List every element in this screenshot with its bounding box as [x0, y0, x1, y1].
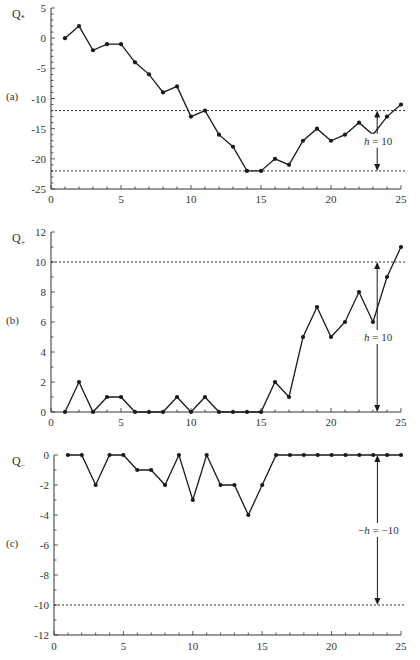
- data-point: [189, 115, 193, 119]
- y-tick-label: 4: [41, 346, 47, 358]
- data-point: [287, 395, 291, 399]
- data-point: [371, 320, 375, 324]
- y-tick-label: 0: [44, 449, 50, 461]
- data-point: [343, 133, 347, 137]
- data-point: [177, 453, 181, 457]
- x-tick-label: 15: [256, 416, 268, 428]
- data-point: [245, 169, 249, 173]
- data-point: [203, 108, 207, 112]
- data-point: [399, 102, 403, 106]
- data-point: [147, 72, 151, 76]
- data-point: [357, 121, 361, 125]
- data-point: [245, 410, 249, 414]
- x-tick-label: 25: [396, 416, 408, 428]
- data-line: [65, 26, 401, 171]
- x-tick-label: 5: [118, 416, 124, 428]
- data-point: [133, 410, 137, 414]
- panel-label: (b): [6, 314, 19, 327]
- data-point: [301, 139, 305, 143]
- x-tick-label: 5: [121, 640, 127, 652]
- data-point: [371, 453, 375, 457]
- data-point: [63, 36, 67, 40]
- x-tick-label: 15: [256, 193, 268, 205]
- data-point: [133, 60, 137, 64]
- x-tick-label: 10: [187, 640, 199, 652]
- data-point: [343, 453, 347, 457]
- data-point: [329, 335, 333, 339]
- y-tick-label: 0: [41, 32, 47, 44]
- x-tick-label: 10: [186, 416, 198, 428]
- data-point: [66, 453, 70, 457]
- x-tick-label: 20: [326, 640, 338, 652]
- data-point: [232, 483, 236, 487]
- y-tick-label: 12: [35, 226, 46, 238]
- cusum-figure: 051015202550-5-10-15-20-25h = 10(a)Q*051…: [0, 0, 420, 660]
- data-point: [287, 163, 291, 167]
- data-point: [330, 453, 334, 457]
- data-point: [217, 410, 221, 414]
- y-axis-label: Q−: [12, 454, 26, 470]
- panel-label: (a): [6, 90, 19, 103]
- y-tick-label: -2: [40, 479, 49, 491]
- x-tick-label: 25: [396, 640, 408, 652]
- data-point: [385, 115, 389, 119]
- data-point: [231, 145, 235, 149]
- y-tick-label: -10: [31, 93, 46, 105]
- h-annotation: −h = −10: [358, 524, 399, 536]
- data-point: [161, 90, 165, 94]
- y-tick-label: -15: [31, 123, 46, 135]
- data-point: [274, 453, 278, 457]
- data-point: [135, 468, 139, 472]
- y-tick-label: -4: [40, 509, 50, 521]
- data-point: [63, 410, 67, 414]
- data-point: [385, 453, 389, 457]
- y-tick-label: -5: [37, 62, 47, 74]
- y-tick-label: -25: [31, 183, 46, 195]
- panel-b: 0510152025121086420h = 10(b)Q+: [6, 226, 407, 428]
- x-tick-label: 0: [51, 640, 57, 652]
- arrow-head-icon: [374, 164, 380, 171]
- x-tick-label: 15: [257, 640, 269, 652]
- x-tick-label: 20: [326, 416, 338, 428]
- data-point: [77, 380, 81, 384]
- data-point: [147, 410, 151, 414]
- data-point: [385, 275, 389, 279]
- y-tick-label: -6: [40, 539, 50, 551]
- data-point: [288, 453, 292, 457]
- x-tick-label: 0: [48, 193, 54, 205]
- x-tick-label: 0: [48, 416, 54, 428]
- data-point: [259, 410, 263, 414]
- y-axis-label: Q*: [12, 7, 25, 23]
- data-point: [357, 453, 361, 457]
- data-point: [119, 42, 123, 46]
- data-point: [316, 453, 320, 457]
- arrow-head-icon: [374, 455, 380, 462]
- data-point: [149, 468, 153, 472]
- data-point: [217, 133, 221, 137]
- data-point: [302, 453, 306, 457]
- arrow-head-icon: [374, 111, 380, 118]
- y-tick-label: -20: [31, 153, 46, 165]
- h-annotation: h = 10: [364, 135, 393, 147]
- data-point: [163, 483, 167, 487]
- y-tick-label: 8: [41, 286, 47, 298]
- y-tick-label: 10: [35, 256, 47, 268]
- y-tick-label: 2: [41, 376, 47, 388]
- panel-label: (c): [6, 537, 19, 550]
- data-point: [315, 127, 319, 131]
- data-point: [191, 498, 195, 502]
- data-point: [329, 139, 333, 143]
- data-point: [77, 24, 81, 28]
- arrow-head-icon: [374, 262, 380, 269]
- data-point: [119, 395, 123, 399]
- x-tick-label: 10: [186, 193, 198, 205]
- data-point: [259, 169, 263, 173]
- y-tick-label: -8: [40, 569, 50, 581]
- data-point: [273, 157, 277, 161]
- data-point: [107, 453, 111, 457]
- data-point: [91, 48, 95, 52]
- data-point: [231, 410, 235, 414]
- data-line: [65, 247, 401, 412]
- data-point: [246, 513, 250, 517]
- x-tick-label: 20: [326, 193, 338, 205]
